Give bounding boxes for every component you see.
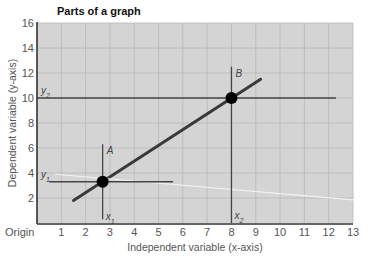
point-b bbox=[225, 92, 237, 104]
y-tick-label: 6 bbox=[28, 142, 34, 154]
x-tick-label: 1 bbox=[58, 226, 64, 238]
y-tick-label: 12 bbox=[22, 67, 34, 79]
origin-label: Origin bbox=[5, 226, 34, 238]
x-tick-label: 11 bbox=[299, 226, 310, 238]
x-axis-label: Independent variable (x-axis) bbox=[127, 241, 262, 253]
x-tick-label: 8 bbox=[228, 226, 234, 238]
chart: 12345678910111213246810121416 Ax1y1Bx2y2… bbox=[0, 0, 375, 261]
x-tick-label: 13 bbox=[347, 226, 359, 238]
point-label: B bbox=[235, 68, 242, 79]
y-tick-label: 10 bbox=[22, 92, 34, 104]
x-tick-label: 9 bbox=[253, 226, 259, 238]
y-tick-label: 2 bbox=[28, 192, 34, 204]
y-tick-label: 8 bbox=[28, 117, 34, 129]
point-a bbox=[97, 176, 109, 188]
x-tick-label: 10 bbox=[274, 226, 286, 238]
x-tick-label: 5 bbox=[155, 226, 161, 238]
y-tick-label: 4 bbox=[28, 167, 34, 179]
point-label: A bbox=[106, 145, 114, 156]
chart-title: Parts of a graph bbox=[57, 5, 141, 17]
y-axis-label: Dependent variable (y-axis) bbox=[6, 59, 18, 187]
x-tick-label: 7 bbox=[204, 226, 210, 238]
x-tick-label: 2 bbox=[83, 226, 89, 238]
x-tick-label: 6 bbox=[180, 226, 186, 238]
x-tick-label: 3 bbox=[107, 226, 113, 238]
x-tick-label: 4 bbox=[131, 226, 137, 238]
y-tick-label: 14 bbox=[22, 42, 34, 54]
y-tick-label: 16 bbox=[22, 17, 34, 29]
x-tick-label: 12 bbox=[323, 226, 335, 238]
